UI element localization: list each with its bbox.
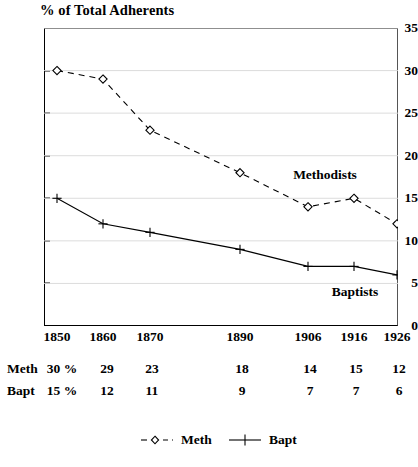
table-row-label-meth: Meth [7, 362, 38, 376]
table-cell: 9 [239, 384, 246, 398]
table-cell: 12 [392, 362, 406, 376]
table-cell: 15 [349, 362, 363, 376]
x-tick-label: 1850 [44, 330, 71, 344]
legend-label: Meth [181, 433, 212, 447]
series-label-methodists: Methodists [293, 168, 357, 182]
x-tick-label: 1906 [295, 330, 322, 344]
chart-legend: Meth Bapt [0, 430, 418, 456]
table-cell: 15 % [47, 384, 77, 398]
series-label-baptists: Baptists [332, 285, 379, 299]
table-cell: 12 [100, 384, 114, 398]
data-point-marker [393, 220, 398, 228]
legend-entry-bapt: Bapt [228, 430, 297, 450]
data-table: Meth 30 % 29 23 18 14 15 12 Bapt 15 % 12… [0, 360, 418, 406]
legend-label: Bapt [269, 433, 297, 447]
data-point-marker [236, 169, 244, 177]
x-tick-label: 1870 [137, 330, 164, 344]
data-point-marker [350, 194, 358, 202]
table-cell: 6 [396, 384, 403, 398]
data-point-marker [53, 66, 61, 74]
table-cell: 23 [145, 362, 159, 376]
chart-title: % of Total Adherents [40, 2, 174, 19]
dashed-diamond-marker-icon [140, 433, 174, 447]
x-tick-label: 1916 [341, 330, 368, 344]
data-point-marker [99, 75, 107, 83]
x-tick-label: 1860 [90, 330, 117, 344]
x-tick-label: 1926 [384, 330, 411, 344]
table-cell: 7 [353, 384, 360, 398]
data-point-marker [304, 203, 312, 211]
x-tick-label: 1890 [227, 330, 254, 344]
series-line-meth [57, 71, 397, 224]
solid-plus-marker-icon [228, 433, 262, 447]
table-row-label-bapt: Bapt [7, 384, 35, 398]
table-cell: 30 % [47, 362, 77, 376]
table-cell: 18 [235, 362, 249, 376]
gridlines [44, 28, 398, 283]
series-line-bapt [57, 198, 397, 275]
chart-figure: % of Total Adherents 0 5 10 15 20 25 30 … [0, 0, 418, 467]
table-cell: 7 [307, 384, 314, 398]
table-cell: 14 [303, 362, 317, 376]
table-cell: 11 [146, 384, 159, 398]
table-cell: 29 [100, 362, 114, 376]
legend-entry-meth: Meth [140, 430, 212, 450]
